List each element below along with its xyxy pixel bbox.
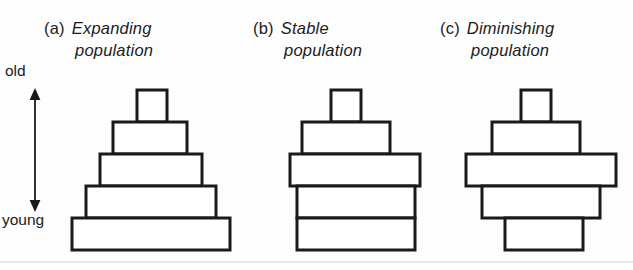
pyramid-c-tier-4: [482, 186, 600, 218]
pyramid-b-stable: [272, 86, 434, 258]
pyramid-b-tier-2: [302, 122, 390, 154]
panel-title-c-line2: population: [471, 40, 554, 61]
pyramid-c-tier-3: [466, 154, 616, 186]
pyramid-a-tier-4: [86, 186, 216, 218]
pyramid-b-tier-3: [290, 154, 420, 186]
pyramid-a-tier-5: [72, 218, 230, 250]
baseline-rule: [0, 261, 633, 263]
panel-caption-c: (c)Diminishingpopulation: [440, 18, 554, 61]
pyramid-a-tier-2: [113, 122, 187, 154]
pyramid-c-tier-5: [505, 218, 583, 250]
pyramid-a-expanding: [58, 86, 244, 258]
panel-title-a-line2: population: [75, 40, 153, 61]
panel-caption-a: (a)Expandingpopulation: [44, 18, 153, 61]
panel-tag-a: (a): [44, 18, 65, 39]
panel-title-b-line1: Stable: [281, 19, 329, 37]
double-arrow-vertical-icon: [28, 88, 42, 212]
pyramid-c-tier-2: [492, 122, 580, 154]
panel-tag-c: (c): [440, 18, 460, 39]
panel-tag-b: (b): [253, 18, 274, 39]
pyramid-a-tier-1: [137, 90, 167, 122]
population-pyramid-figure: (a)Expandingpopulation (b)Stablepopulati…: [0, 0, 633, 270]
axis-label-young: young: [2, 211, 44, 229]
pyramid-c-tier-1: [521, 90, 551, 122]
pyramid-c-diminishing: [450, 86, 632, 258]
pyramid-b-tier-4: [297, 186, 415, 218]
panel-caption-b: (b)Stablepopulation: [253, 18, 362, 61]
panel-title-b-line2: population: [284, 40, 362, 61]
axis-label-old: old: [5, 62, 26, 80]
panel-title-c-line1: Diminishing: [467, 19, 554, 37]
panel-title-a-line1: Expanding: [72, 19, 152, 37]
pyramid-b-tier-1: [331, 90, 361, 122]
pyramid-a-tier-3: [100, 154, 202, 186]
pyramid-b-tier-5: [297, 218, 415, 250]
